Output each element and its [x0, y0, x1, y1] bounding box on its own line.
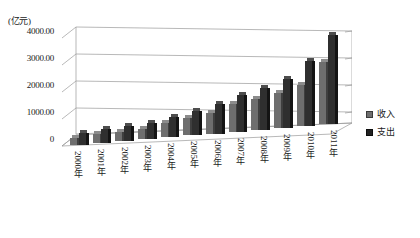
x-tick-label-2004年: 2004年 [165, 143, 178, 170]
legend-label-expenditure: 支出 [377, 128, 395, 137]
expenditure-swatch-icon [366, 129, 373, 136]
bar-expenditure-2005年[interactable] [192, 111, 199, 135]
legend-label-income: 收入 [377, 110, 395, 119]
bar-expenditure-2008年[interactable] [260, 88, 267, 130]
bar-expenditure-2011年[interactable] [328, 35, 335, 124]
bar-expenditure-2001年[interactable] [101, 129, 108, 143]
plot-area [62, 22, 352, 148]
x-tick-label-2006年: 2006年 [212, 140, 225, 167]
bar-expenditure-2002年[interactable] [124, 126, 131, 141]
x-tick-label-2000年: 2000年 [72, 151, 85, 178]
bar-income-2010年[interactable] [297, 85, 304, 126]
x-tick-label-2003年: 2003年 [142, 145, 155, 172]
bar-income-2009年[interactable] [274, 93, 281, 128]
legend-item-income[interactable]: 收入 [366, 110, 395, 119]
y-tick-label-4000: 4000.00 [0, 26, 54, 36]
bar-expenditure-2010年[interactable] [305, 61, 312, 126]
y-tick-label-3000: 3000.00 [0, 53, 54, 63]
bar-income-2007年[interactable] [229, 104, 236, 132]
x-tick-label-2002年: 2002年 [119, 147, 132, 174]
bar-expenditure-2000年[interactable] [79, 133, 86, 145]
x-tick-label-2005年: 2005年 [188, 141, 201, 168]
y-tick-label-1000: 1000.00 [0, 107, 54, 117]
bar-expenditure-2003年[interactable] [147, 123, 154, 140]
bar-income-2008年[interactable] [251, 99, 258, 130]
y-tick-label-2000: 2000.00 [0, 80, 54, 90]
bar-income-2005年[interactable] [183, 118, 190, 136]
bar-income-2000年[interactable] [70, 138, 77, 145]
x-axis-labels: 2000年2001年2002年2003年2004年2005年2006年2007年… [62, 150, 362, 210]
x-tick-label-2001年: 2001年 [95, 149, 108, 176]
bar-income-2006年[interactable] [206, 113, 213, 134]
income-swatch-icon [366, 111, 373, 118]
chart-legend: 收入 支出 [366, 110, 395, 146]
legend-item-expenditure[interactable]: 支出 [366, 128, 395, 137]
x-tick-label-2010年: 2010年 [305, 132, 318, 159]
bar-income-2011年[interactable] [319, 62, 326, 124]
bar-income-2004年[interactable] [161, 123, 168, 137]
y-tick-label-0: 0 [0, 134, 54, 144]
x-tick-label-2009年: 2009年 [281, 134, 294, 161]
bar-expenditure-2006年[interactable] [215, 104, 222, 133]
bar-series-container [62, 22, 352, 148]
x-tick-label-2007年: 2007年 [235, 138, 248, 165]
bar-income-2002年[interactable] [115, 132, 122, 142]
bar-expenditure-2004年[interactable] [169, 117, 176, 138]
bar-income-2003年[interactable] [138, 129, 145, 140]
x-tick-label-2011年: 2011年 [328, 130, 341, 157]
bar-income-2001年[interactable] [93, 134, 100, 143]
bar-chart: (亿元) 4000.00 3000.00 2000.00 1000.00 0 [0, 0, 420, 238]
bar-expenditure-2009年[interactable] [283, 79, 290, 128]
bar-expenditure-2007年[interactable] [237, 95, 244, 131]
x-tick-label-2008年: 2008年 [258, 136, 271, 163]
